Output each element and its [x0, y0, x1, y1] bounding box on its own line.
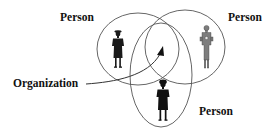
person-label-top-right: Person [228, 12, 262, 24]
arrowhead-icon [157, 46, 164, 56]
organization-venn-diagram: Person Person Person Organization [0, 0, 272, 129]
organization-arrow [86, 54, 160, 84]
person-label-top-left: Person [60, 12, 94, 24]
person-figure-bottom-icon [157, 80, 170, 121]
organization-label: Organization [13, 78, 78, 90]
person-figure-right-icon [200, 25, 213, 68]
person-label-bottom: Person [199, 106, 233, 118]
person-right-circle [145, 10, 225, 84]
person-figure-left-icon [112, 30, 124, 68]
